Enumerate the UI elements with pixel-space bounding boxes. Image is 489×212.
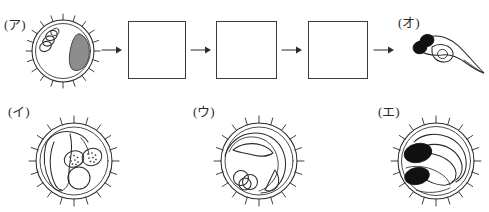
answer-box-1[interactable] <box>128 21 186 79</box>
embryo-eyes-e <box>402 141 433 187</box>
answer-box-3[interactable] <box>308 21 368 79</box>
embryo-body-i <box>44 132 89 192</box>
oil-globule-cluster-a <box>38 27 61 54</box>
figure-i-embryo-eye-vesicles <box>24 112 124 210</box>
oil-globule-i <box>68 167 90 189</box>
radial-filaments-i <box>29 116 119 206</box>
figure-a-fertilized-egg <box>20 12 106 90</box>
figure-u-embryonic-shield <box>209 112 309 210</box>
figure-e-late-embryo <box>386 112 486 210</box>
radial-filaments-u <box>214 116 304 206</box>
arrow-3 <box>281 44 303 56</box>
worksheet-canvas: (ア) <box>0 0 489 212</box>
figure-o-hatched-larva <box>404 27 488 79</box>
arrow-2 <box>190 44 212 56</box>
arrow-1 <box>101 44 123 56</box>
answer-box-2[interactable] <box>216 21 277 79</box>
arrow-4 <box>373 44 395 56</box>
